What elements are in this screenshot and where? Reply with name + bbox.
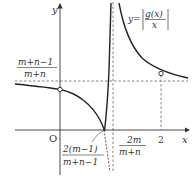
function-graph: y x O 2 y= g(x) x m+n−1 m+n 2m m+n 2(m−1… bbox=[0, 0, 196, 176]
svg-text:m+n: m+n bbox=[24, 69, 46, 79]
svg-text:m+n−1: m+n−1 bbox=[18, 57, 53, 67]
x-axis-label: x bbox=[182, 134, 188, 145]
curve-rising-branch bbox=[105, 3, 112, 131]
svg-text:m+n: m+n bbox=[119, 147, 141, 157]
function-label: y= g(x) x bbox=[127, 9, 168, 30]
svg-text:g(x): g(x) bbox=[145, 9, 163, 19]
origin-label: O bbox=[49, 133, 57, 144]
svg-text:x: x bbox=[152, 20, 157, 30]
x-tick-2: 2 bbox=[158, 135, 164, 145]
vertical-asymptote-label: 2m m+n bbox=[119, 135, 146, 157]
tangent-line bbox=[104, 130, 110, 172]
root-label: 2(m−1) m+n−1 bbox=[62, 144, 104, 167]
open-point-y-intercept bbox=[58, 87, 62, 91]
open-point-x2 bbox=[159, 71, 163, 75]
horizontal-asymptote-label: m+n−1 m+n bbox=[17, 57, 57, 79]
svg-text:2m: 2m bbox=[126, 135, 141, 145]
svg-text:2(m−1): 2(m−1) bbox=[62, 144, 98, 154]
svg-text:m+n−1: m+n−1 bbox=[63, 157, 98, 167]
svg-text:y=: y= bbox=[127, 14, 141, 24]
y-axis-label: y bbox=[51, 4, 58, 15]
root-leader-line bbox=[92, 131, 103, 142]
